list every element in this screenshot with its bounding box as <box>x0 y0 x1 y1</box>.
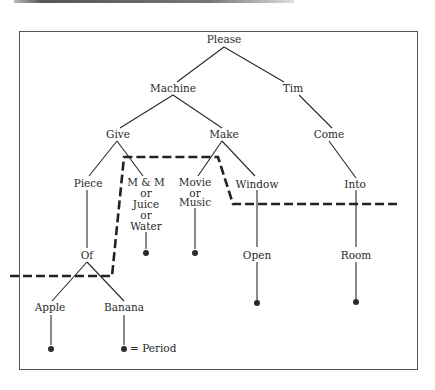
dashed-boundary-line <box>10 157 397 276</box>
node-room: Room <box>341 249 372 261</box>
node-labels: Please Machine Tim Give Make Come Piece … <box>34 33 372 313</box>
period-dot-apple <box>48 346 54 352</box>
node-banana: Banana <box>104 301 144 313</box>
node-piece: Piece <box>74 177 103 189</box>
node-make: Make <box>209 128 239 140</box>
period-dot-movie <box>192 250 198 256</box>
node-apple: Apple <box>34 301 66 313</box>
node-tim: Tim <box>283 82 303 94</box>
period-dot-room <box>353 299 359 305</box>
period-dots <box>48 250 359 352</box>
node-please: Please <box>207 33 242 45</box>
sentence-tree-diagram: Please Machine Tim Give Make Come Piece … <box>0 0 435 390</box>
node-of: Of <box>81 249 95 261</box>
diagram-frame <box>20 32 418 370</box>
node-window: Window <box>236 178 279 190</box>
node-come: Come <box>314 128 345 140</box>
node-movie-line-3: Music <box>179 196 211 208</box>
period-dot-mm <box>143 250 149 256</box>
node-give: Give <box>106 128 130 140</box>
node-into: Into <box>344 178 365 190</box>
legend-period: = Period <box>130 342 177 354</box>
node-mm-line-5: Water <box>130 220 163 232</box>
node-open: Open <box>243 249 272 261</box>
period-dot-open <box>254 300 260 306</box>
node-machine: Machine <box>150 82 196 94</box>
period-dot-banana <box>121 346 127 352</box>
